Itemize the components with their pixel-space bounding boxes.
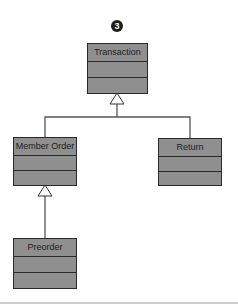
class-preorder: Preorder [13,238,77,289]
class-name: Transaction [88,44,147,62]
attributes-compartment [14,257,76,272]
class-name: Member Order [14,138,76,156]
class-name: Preorder [14,239,76,257]
attributes-compartment [88,62,147,77]
operations-compartment [88,77,147,93]
generalization-arrow-transaction [110,93,124,104]
class-name: Return [159,139,221,157]
operations-compartment [14,272,76,288]
operations-compartment [14,170,76,185]
step-number-badge: 3 [111,20,123,32]
attributes-compartment [14,156,76,170]
bottom-divider [0,302,238,304]
operations-compartment [159,171,221,186]
class-member-order: Member Order [13,137,77,186]
attributes-compartment [159,157,221,171]
generalization-arrow-member-order [38,185,52,196]
class-return: Return [158,138,222,186]
class-transaction: Transaction [87,43,148,94]
